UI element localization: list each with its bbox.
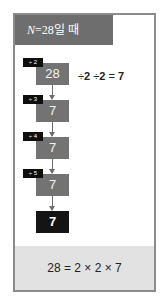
- divisor-tag-2: ÷ 3: [23, 95, 43, 104]
- down-arrow-icon: [52, 85, 53, 99]
- diagram-frame: N=28일 때 28 ÷ 2 7 ÷ 3 7 ÷ 4 7 ÷ 5 7 ÷2 ÷2…: [13, 13, 156, 292]
- divisor-label: ÷ 2: [29, 59, 37, 65]
- diagram-header: N=28일 때: [15, 15, 113, 45]
- header-text: =28일 때: [35, 23, 79, 37]
- divisor-tag-1: ÷ 2: [23, 58, 43, 67]
- final-value: 7: [49, 214, 56, 229]
- header-variable: N: [27, 23, 35, 37]
- division-equation: ÷2 ÷2 = 7: [78, 69, 124, 83]
- equation-result: 7: [118, 70, 124, 82]
- divisor-label: ÷ 4: [29, 133, 37, 139]
- down-arrow-icon: [52, 196, 53, 210]
- final-result-box: 7: [36, 211, 69, 233]
- step-value: 7: [49, 103, 56, 118]
- step-value: 28: [45, 66, 59, 81]
- divisor-value: 2: [84, 70, 90, 82]
- down-arrow-icon: [52, 122, 53, 136]
- divisor-label: ÷ 5: [29, 170, 37, 176]
- equals-sign: =: [108, 70, 114, 82]
- step-value: 7: [49, 177, 56, 192]
- factorization-text: 28 = 2 × 2 × 7: [47, 261, 121, 275]
- divisor-tag-3: ÷ 4: [23, 132, 43, 141]
- divisor-value: 2: [99, 70, 105, 82]
- factorization-footer: 28 = 2 × 2 × 7: [15, 246, 154, 290]
- step-value: 7: [49, 140, 56, 155]
- divisor-label: ÷ 3: [29, 96, 37, 102]
- down-arrow-icon: [52, 159, 53, 173]
- divisor-tag-4: ÷ 5: [23, 169, 43, 178]
